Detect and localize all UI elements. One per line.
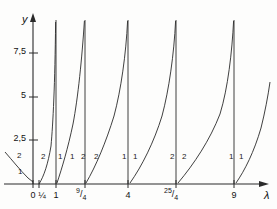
plot-canvas <box>0 0 277 209</box>
plot-figure: y λ 7,5 5 2,5 0 ¼ 1 9/4 4 25/4 9 2 1 2 1… <box>0 0 277 209</box>
branch-label: 2 <box>17 152 21 160</box>
x-tick-label-1: 1 <box>50 191 62 200</box>
branch-label: 1 <box>70 153 74 161</box>
x-tick-label-4: 4 <box>122 191 134 200</box>
x-tick-label-25-4: 25/4 <box>164 190 178 199</box>
y-tick-label-2-5: 2,5 <box>3 134 26 143</box>
branch-label: 1 <box>122 153 126 161</box>
x-tick-label-9-4-denominator: 4 <box>82 194 86 201</box>
branch-label: 2 <box>182 153 186 161</box>
x-axis-label: λ <box>264 190 269 201</box>
y-tick-label-7-5: 7,5 <box>6 47 26 56</box>
x-tick-label-9: 9 <box>228 191 240 200</box>
branch-label: 1 <box>18 168 22 176</box>
x-tick-label-9-4: 9/4 <box>76 190 86 199</box>
curve-branch-6 <box>236 82 270 183</box>
branch-label: 2 <box>81 153 85 161</box>
branch-label: 1 <box>58 153 62 161</box>
y-axis-label: y <box>22 14 28 25</box>
x-tick-label-quarter: ¼ <box>36 191 48 200</box>
branch-label: 1 <box>133 153 137 161</box>
y-tick-label-5: 5 <box>6 91 26 100</box>
x-tick-label-25-4-denominator: 4 <box>174 194 178 201</box>
branch-label: 2 <box>170 153 174 161</box>
branch-label: 1 <box>229 153 233 161</box>
x-axis-arrow <box>259 181 269 187</box>
branch-label: 1 <box>239 153 243 161</box>
branch-label: 2 <box>94 153 98 161</box>
x-tick-label-25-4-numerator: 25 <box>164 187 172 194</box>
branch-label: 2 <box>41 153 45 161</box>
y-axis-arrow <box>30 13 36 22</box>
